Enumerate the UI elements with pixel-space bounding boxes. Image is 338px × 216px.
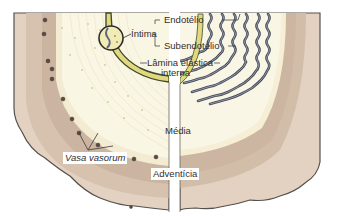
label-internal-elastic-lamina-2: interna xyxy=(161,68,190,78)
left-wall-section xyxy=(14,13,169,210)
label-media: Média xyxy=(165,126,191,136)
label-adventitia: Adventícia xyxy=(151,168,199,180)
label-intima: Íntima xyxy=(131,29,157,39)
label-vasa-vasorum: Vasa vasorum xyxy=(63,152,127,164)
label-endothelium: Endotélio xyxy=(164,15,204,25)
artery-cross-section-illustration xyxy=(0,0,338,216)
artery-wall-diagram: Íntima Endotélio Subendotélio Lâmina elá… xyxy=(0,0,338,216)
label-subendothelium: Subendotélio xyxy=(164,41,219,51)
